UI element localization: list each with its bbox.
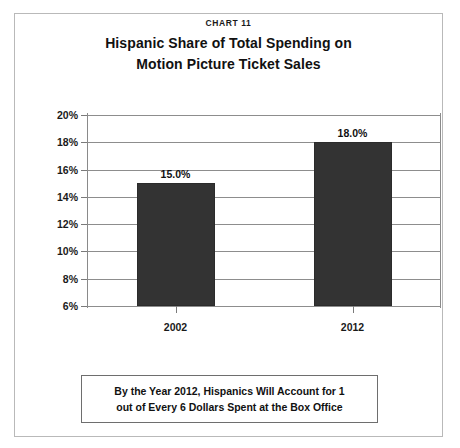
y-axis-tick-label: 10% bbox=[57, 245, 78, 257]
y-axis-tick-mark bbox=[81, 197, 87, 198]
caption-line-1: By the Year 2012, Hispanics Will Account… bbox=[114, 383, 344, 399]
caption-line-2: out of Every 6 Dollars Spent at the Box … bbox=[116, 399, 342, 415]
chart-figure-frame: CHART 11 Hispanic Share of Total Spendin… bbox=[14, 13, 443, 437]
x-axis-tick-label: 2012 bbox=[341, 321, 364, 333]
y-axis-tick-mark bbox=[81, 224, 87, 225]
y-axis-tick-mark bbox=[81, 279, 87, 280]
y-axis-tick-label: 12% bbox=[57, 218, 78, 230]
gridline bbox=[87, 306, 441, 307]
bar-2002[interactable] bbox=[137, 183, 215, 306]
chart-number-label: CHART 11 bbox=[15, 18, 442, 28]
bar-2012[interactable] bbox=[314, 142, 392, 306]
chart-title: Hispanic Share of Total Spending on Moti… bbox=[15, 33, 442, 75]
bar-value-label: 18.0% bbox=[338, 127, 368, 139]
y-axis-tick-mark bbox=[81, 142, 87, 143]
y-axis-tick-mark bbox=[81, 306, 87, 307]
chart-title-line-1: Hispanic Share of Total Spending on bbox=[15, 33, 442, 54]
gridline bbox=[87, 115, 441, 116]
y-axis-tick-label: 8% bbox=[63, 273, 78, 285]
chart-title-line-2: Motion Picture Ticket Sales bbox=[15, 54, 442, 75]
y-axis-tick-mark bbox=[81, 251, 87, 252]
y-axis-tick-mark bbox=[81, 115, 87, 116]
y-axis-tick-label: 16% bbox=[57, 164, 78, 176]
y-axis-tick-label: 18% bbox=[57, 136, 78, 148]
x-axis-tick-mark bbox=[176, 306, 177, 313]
x-axis-tick-mark bbox=[353, 306, 354, 313]
bar-value-label: 15.0% bbox=[161, 168, 191, 180]
x-axis-tick-label: 2002 bbox=[164, 321, 187, 333]
plot-area: 6%8%10%12%14%16%18%20% 15.0%18.0% 200220… bbox=[87, 115, 441, 306]
y-axis-tick-label: 6% bbox=[63, 300, 78, 312]
y-axis-tick-label: 14% bbox=[57, 191, 78, 203]
y-axis-tick-label: 20% bbox=[57, 109, 78, 121]
caption-box: By the Year 2012, Hispanics Will Account… bbox=[81, 375, 378, 423]
y-axis-tick-mark bbox=[81, 170, 87, 171]
